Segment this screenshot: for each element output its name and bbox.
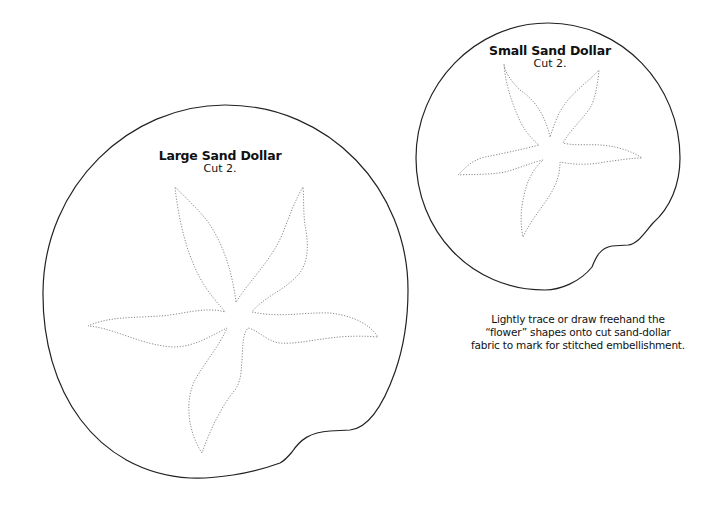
small-flower-stitch-line	[458, 64, 642, 237]
large-sand-dollar-cut-instruction: Cut 2.	[130, 163, 310, 175]
instructions-line-1: Lightly trace or draw freehand the	[440, 313, 716, 326]
large-sand-dollar-label: Large Sand Dollar Cut 2.	[130, 149, 310, 175]
small-sand-dollar-label: Small Sand Dollar Cut 2.	[470, 44, 630, 70]
small-sand-dollar-title: Small Sand Dollar	[470, 44, 630, 58]
instructions-line-3: fabric to mark for stitched embellishmen…	[440, 339, 716, 352]
pattern-artwork	[0, 0, 716, 507]
large-sand-dollar-title: Large Sand Dollar	[130, 149, 310, 163]
instructions-line-2: “flower” shapes onto cut sand-dollar	[440, 326, 716, 339]
large-flower-stitch-line	[88, 187, 378, 453]
small-sand-dollar-cut-instruction: Cut 2.	[470, 58, 630, 70]
tracing-instructions: Lightly trace or draw freehand the “flow…	[440, 313, 716, 352]
